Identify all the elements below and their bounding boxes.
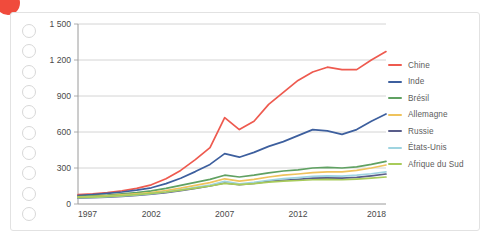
legend-item[interactable]: Allemagne	[388, 107, 496, 124]
legend-item-label: Allemagne	[408, 110, 448, 119]
y-axis-tick-label: 600	[57, 127, 72, 137]
legend-item-label: Inde	[408, 77, 424, 86]
legend-color-swatch	[388, 97, 402, 99]
legend-color-swatch	[388, 64, 402, 66]
x-axis-tick-label: 1997	[78, 209, 97, 219]
legend-item[interactable]: Inde	[388, 74, 496, 91]
legend-color-swatch	[388, 147, 402, 149]
x-axis-tick-label: 2018	[367, 209, 386, 219]
y-axis-tick-label: 1 200	[49, 55, 71, 65]
chart-legend: ChineIndeBrésilAllemagneRussieÉtats-Unis…	[388, 57, 496, 173]
y-axis-tick-label: 0	[66, 199, 71, 209]
y-axis-tick-label: 900	[57, 91, 72, 101]
legend-item-label: Russie	[408, 127, 434, 136]
legend-item[interactable]: États-Unis	[388, 140, 496, 157]
legend-item[interactable]: Chine	[388, 57, 496, 74]
legend-color-swatch	[388, 81, 402, 83]
legend-item[interactable]: Russie	[388, 123, 496, 140]
page-root: 03006009001 2001 50019972002200720122018…	[0, 0, 500, 243]
legend-color-swatch	[388, 163, 402, 165]
legend-item[interactable]: Brésil	[388, 90, 496, 107]
legend-item-label: États-Unis	[408, 143, 447, 152]
x-axis-tick-label: 2002	[142, 209, 161, 219]
series-line-chine	[78, 52, 386, 195]
x-axis-tick-label: 2007	[215, 209, 234, 219]
y-axis-tick-label: 1 500	[49, 19, 71, 29]
legend-item-label: Afrique du Sud	[408, 160, 464, 169]
legend-item[interactable]: Afrique du Sud	[388, 156, 496, 173]
x-axis-tick-label: 2012	[288, 209, 307, 219]
y-axis-tick-label: 300	[57, 163, 72, 173]
legend-item-label: Brésil	[408, 94, 429, 103]
legend-item-label: Chine	[408, 61, 430, 70]
legend-color-swatch	[388, 114, 402, 116]
legend-color-swatch	[388, 130, 402, 132]
